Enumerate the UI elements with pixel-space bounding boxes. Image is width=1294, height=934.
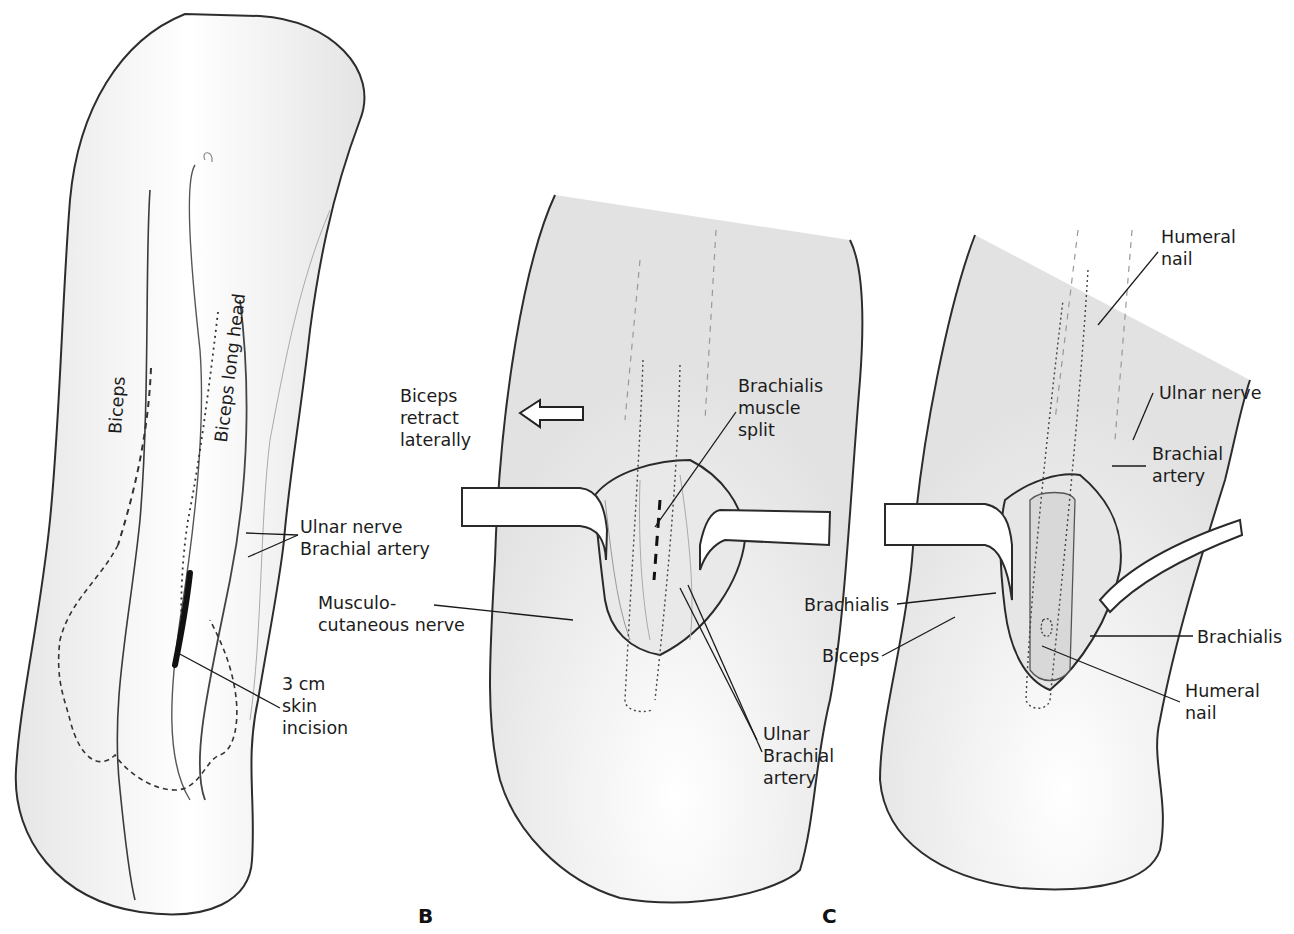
label-ulnar-brachial-artery-b: Ulnar Brachial artery — [763, 723, 834, 789]
panel-b-arm — [434, 195, 862, 902]
label-brachialis-muscle-split: Brachialis muscle split — [738, 375, 823, 441]
label-brachial-artery-c: Brachial artery — [1152, 443, 1223, 487]
label-ulnar-nerve-brachial-artery-a: Ulnar nerve Brachial artery — [300, 516, 430, 560]
label-skin-incision: 3 cm skin incision — [282, 673, 348, 739]
panel-a-arm — [16, 14, 365, 914]
panel-letter-c: C — [822, 904, 837, 928]
label-musculocutaneous-nerve: Musculo- cutaneous nerve — [318, 592, 465, 636]
label-biceps-c: Biceps — [822, 645, 879, 667]
label-brachialis-left: Brachialis — [804, 594, 889, 616]
label-biceps-retract-laterally: Biceps retract laterally — [400, 385, 471, 451]
label-brachialis-right: Brachialis — [1197, 626, 1282, 648]
label-humeral-nail-top: Humeral nail — [1161, 226, 1236, 270]
anatomy-drawing — [0, 0, 1294, 934]
surgical-illustration-figure: Biceps Biceps long head Ulnar nerve Brac… — [0, 0, 1294, 934]
panel-c-arm — [880, 230, 1250, 889]
label-humeral-nail-bottom: Humeral nail — [1185, 680, 1260, 724]
panel-letter-b: B — [418, 904, 433, 928]
label-ulnar-nerve-c: Ulnar nerve — [1159, 382, 1261, 404]
label-biceps-a: Biceps — [104, 376, 130, 435]
